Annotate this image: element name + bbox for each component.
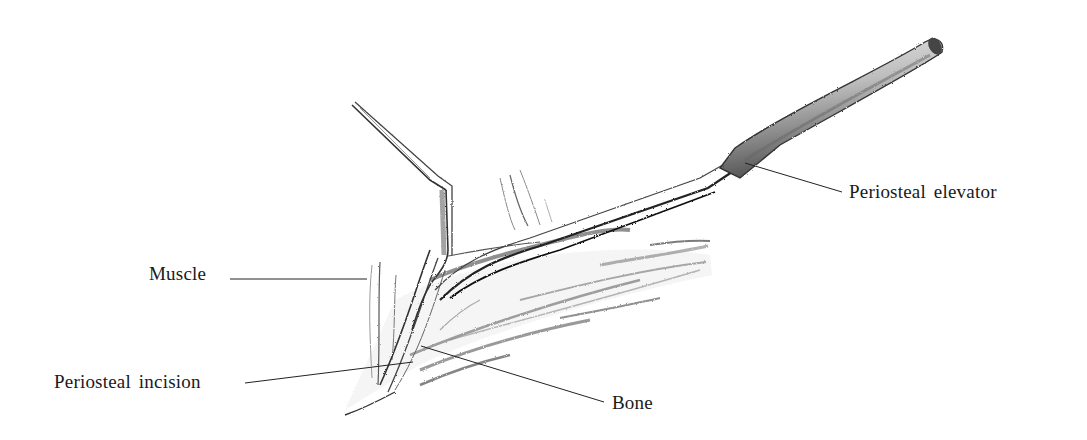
surgical-illustration: Periosteal elevator Muscle Periosteal in… (0, 0, 1087, 440)
label-bone: Bone (612, 392, 653, 414)
label-periosteal-incision: Periosteal incision (54, 371, 201, 393)
label-periosteal-elevator: Periosteal elevator (849, 181, 997, 203)
label-muscle: Muscle (149, 263, 206, 285)
leader-line-elevator (745, 163, 842, 192)
bone-tissue (345, 241, 712, 410)
elevator-handle (720, 35, 945, 178)
